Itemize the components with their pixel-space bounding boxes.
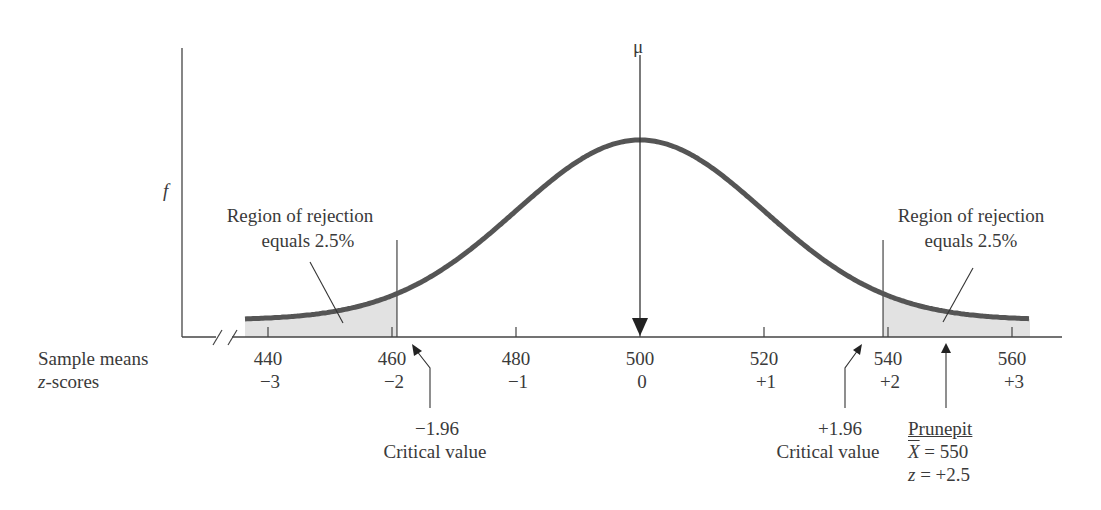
- z-value: = +2.5: [920, 464, 970, 485]
- x-tick-label: 540: [874, 348, 903, 369]
- right-critical-z: +1.96: [818, 418, 862, 439]
- left-critical-arrow-shaft: [416, 350, 430, 408]
- z-tick-label: −2: [384, 371, 404, 392]
- sample-arrowhead-icon: [941, 343, 951, 353]
- x-row-label-means: Sample means: [38, 348, 148, 369]
- right-rejection-label-1: Region of rejection: [898, 205, 1045, 226]
- z-tick-label: +1: [756, 371, 776, 392]
- z-symbol: z: [908, 464, 915, 485]
- right-critical-label: Critical value: [777, 441, 880, 462]
- z-tick-label: 0: [637, 371, 647, 392]
- z-tick-label: −1: [508, 371, 528, 392]
- x-tick-label: 560: [998, 348, 1027, 369]
- left-rejection-label-1: Region of rejection: [227, 205, 374, 226]
- sample-xbar: X = 550: [908, 441, 968, 462]
- left-critical-z: −1.96: [415, 418, 459, 439]
- xbar-value: = 550: [924, 441, 968, 462]
- y-axis-label: f: [163, 180, 168, 201]
- x-tick-label: 480: [502, 348, 531, 369]
- x-tick-label: 460: [378, 348, 407, 369]
- chart-figure: f μ Region of rejection equals 2.5% Regi…: [0, 0, 1101, 510]
- z-tick-label: +2: [880, 371, 900, 392]
- normal-curve: [245, 140, 1029, 319]
- left-critical-arrowhead-icon: [412, 344, 422, 356]
- sample-name: Prunepit: [908, 418, 972, 439]
- right-critical-arrowhead-icon: [853, 344, 862, 355]
- x-tick-label: 520: [750, 348, 779, 369]
- z-tick-label: +3: [1004, 371, 1024, 392]
- x-tick-label: 440: [254, 348, 283, 369]
- mu-label: μ: [633, 36, 643, 57]
- xbar-symbol: X: [908, 441, 920, 462]
- mu-arrowhead-icon: [632, 318, 648, 336]
- x-tick-label: 500: [626, 348, 655, 369]
- z-tick-label: −3: [260, 371, 280, 392]
- right-rejection-label-2: equals 2.5%: [925, 230, 1018, 251]
- left-critical-label: Critical value: [384, 441, 487, 462]
- left-rejection-label-2: equals 2.5%: [262, 230, 355, 251]
- x-row-label-zscores: z-scores: [38, 371, 99, 392]
- sample-z: z = +2.5: [908, 464, 970, 485]
- right-critical-arrow-shaft: [845, 350, 858, 408]
